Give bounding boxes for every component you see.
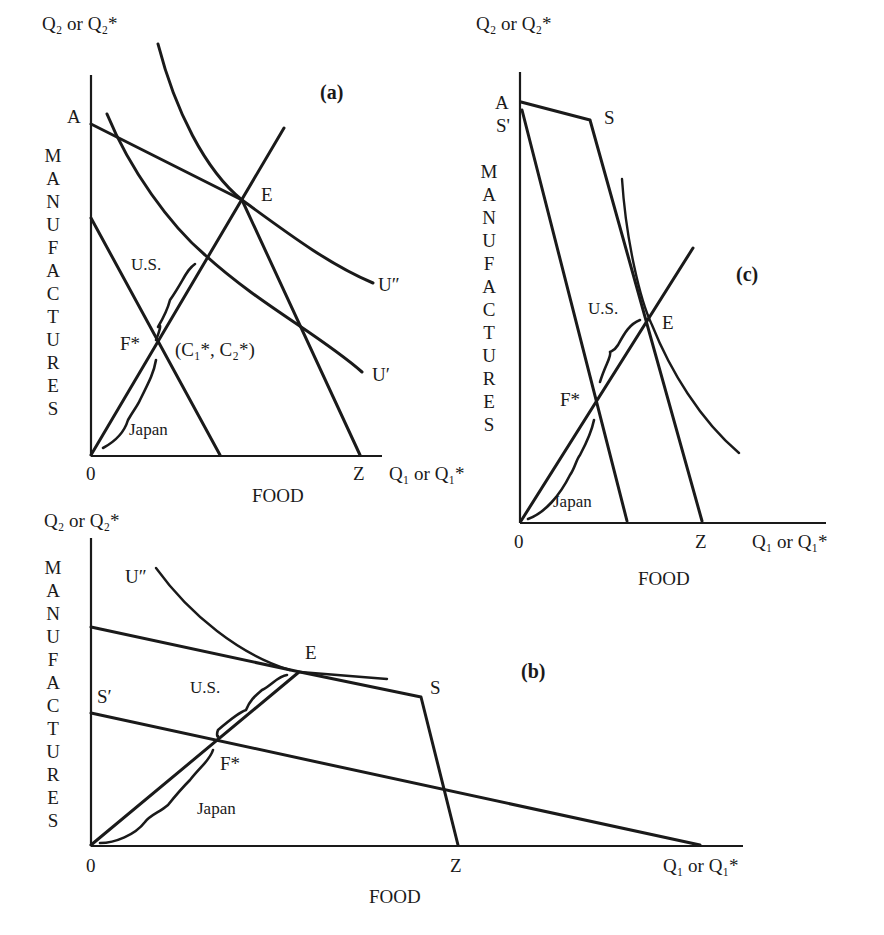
panel-c-y-axis-label: Q₂ or Q₂*: [476, 13, 552, 34]
svg-text:R: R: [47, 764, 60, 785]
panel-b-label-us: U.S.: [190, 678, 220, 697]
svg-text:A: A: [46, 260, 60, 281]
panel-a-label-japan: Japan: [129, 420, 168, 439]
panel-a-label-us: U.S.: [131, 255, 161, 274]
panel-a-consumption-ray: [91, 128, 284, 455]
panel-a-point-e: E: [261, 184, 273, 205]
svg-text:A: A: [46, 672, 60, 693]
svg-text:R: R: [483, 368, 496, 389]
panel-b-japan-production-frontier: [91, 713, 700, 845]
svg-text:F: F: [48, 237, 59, 258]
panel-a-label-u-prime: U′: [372, 364, 390, 385]
panel-b-x-axis-title: FOOD: [369, 886, 421, 907]
svg-text:N: N: [46, 603, 60, 624]
panel-c-origin: 0: [514, 531, 524, 552]
svg-text:U: U: [46, 214, 60, 235]
svg-text:R: R: [47, 352, 60, 373]
svg-text:C: C: [47, 695, 60, 716]
panel-a-origin: 0: [86, 463, 96, 484]
svg-text:S: S: [48, 810, 59, 831]
svg-text:U: U: [46, 329, 60, 350]
panel-b-label-japan: Japan: [197, 799, 236, 818]
svg-text:U: U: [482, 230, 496, 251]
panel-c-label-us: U.S.: [588, 299, 618, 318]
panel-a-label-u-double-prime: U″: [378, 274, 400, 295]
svg-text:U: U: [46, 741, 60, 762]
svg-text:S: S: [484, 414, 495, 435]
panel-b-us-production-frontier: [91, 627, 458, 845]
panel-b-us-brace: [217, 675, 287, 737]
panel-a-point-a: A: [67, 106, 81, 127]
panel-a-y-axis-label: Q₂ or Q₂*: [42, 13, 118, 34]
svg-text:A: A: [46, 580, 60, 601]
svg-text:U: U: [482, 345, 496, 366]
panel-b-x-axis-label: Q₁ or Q₁*: [663, 855, 739, 876]
panel-a-y-axis-title: M A N U F A C T U R E S: [45, 145, 62, 419]
svg-text:M: M: [45, 557, 62, 578]
panel-a-indifference-curve-u-double-prime: [158, 44, 373, 283]
panel-c-x-axis-label: Q₁ or Q₁*: [752, 531, 828, 552]
panel-a-consumption-point: (C₁*, C₂*): [175, 339, 255, 361]
panel-c-point-s: S: [604, 107, 615, 128]
panel-c-point-z: Z: [695, 531, 707, 552]
panel-c-label-japan: Japan: [553, 492, 592, 511]
svg-text:N: N: [46, 191, 60, 212]
svg-text:T: T: [47, 306, 59, 327]
svg-text:E: E: [483, 391, 495, 412]
panel-c-point-s-prime: S': [496, 115, 510, 136]
panel-c-tag: (c): [736, 263, 758, 286]
panel-b-y-axis-label: Q₂ or Q₂*: [44, 510, 120, 531]
svg-text:U: U: [46, 626, 60, 647]
panel-b-label-u-double-prime: U″: [125, 566, 147, 587]
panel-b-tag: (b): [521, 660, 545, 683]
svg-text:F: F: [48, 649, 59, 670]
panel-b-point-s: S: [430, 677, 441, 698]
panel-c-point-a: A: [495, 92, 509, 113]
panel-a-tag: (a): [320, 81, 343, 104]
panel-b-point-z: Z: [450, 855, 462, 876]
panel-b-point-f-star: F*: [220, 753, 240, 774]
svg-text:A: A: [482, 184, 496, 205]
trade-equilibrium-diagram: Q₂ or Q₂* (a) M A N U F A C T U R E S: [0, 0, 884, 935]
svg-text:C: C: [47, 283, 60, 304]
panel-c-y-axis-title: M A N U F A C T U R E S: [481, 161, 498, 435]
svg-text:E: E: [47, 787, 59, 808]
svg-text:T: T: [47, 718, 59, 739]
svg-text:A: A: [46, 168, 60, 189]
svg-text:M: M: [45, 145, 62, 166]
svg-text:S: S: [48, 398, 59, 419]
panel-b-japan-brace: [100, 750, 213, 843]
svg-text:T: T: [483, 322, 495, 343]
svg-text:M: M: [481, 161, 498, 182]
panel-c-point-f-star: F*: [560, 389, 580, 410]
panel-a-point-z: Z: [353, 463, 365, 484]
panel-b-origin: 0: [86, 855, 96, 876]
panel-c-x-axis-title: FOOD: [638, 568, 690, 589]
panel-c-us-brace: [600, 320, 640, 382]
panel-a-point-f-star: F*: [120, 333, 140, 354]
svg-text:F: F: [484, 253, 495, 274]
panel-a: Q₂ or Q₂* (a) M A N U F A C T U R E S: [42, 13, 465, 506]
panel-b-point-e: E: [305, 642, 317, 663]
panel-b-y-axis-title: M A N U F A C T U R E S: [45, 557, 62, 831]
panel-a-us-brace: [156, 264, 195, 340]
panel-c-point-e: E: [662, 312, 674, 333]
panel-a-x-axis-label: Q₁ or Q₁*: [389, 463, 465, 484]
svg-text:N: N: [482, 207, 496, 228]
svg-text:C: C: [483, 299, 496, 320]
panel-a-x-axis-title: FOOD: [252, 485, 304, 506]
panel-c-indifference-curve: [622, 179, 739, 453]
panel-b-point-s-prime: S′: [97, 686, 112, 707]
panel-c: Q₂ or Q₂* (c) M A N U F A C T U R E S A: [476, 13, 828, 589]
svg-text:E: E: [47, 375, 59, 396]
panel-c-consumption-ray: [521, 248, 693, 521]
panel-b-consumption-ray: [91, 672, 299, 845]
svg-text:A: A: [482, 276, 496, 297]
